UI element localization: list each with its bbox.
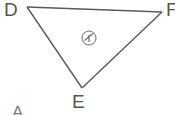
partial-label-A: A (12, 103, 23, 115)
triangle-figure (0, 0, 175, 115)
edge-FE (82, 12, 162, 88)
vertex-label-E: E (72, 92, 85, 111)
edge-DF (27, 7, 162, 12)
edge-ED (27, 7, 82, 88)
vertex-label-D: D (4, 0, 18, 19)
angle-1-marker (82, 31, 96, 45)
diagram-canvas: D F E A (0, 0, 175, 115)
vertex-label-F: F (166, 0, 175, 19)
